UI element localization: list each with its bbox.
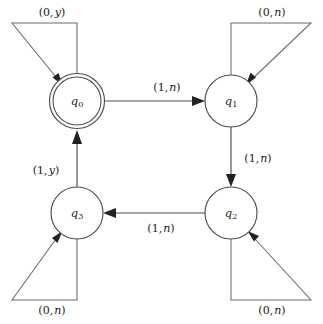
transition-q2-to-q3-label: (1, n) — [147, 222, 174, 235]
state-q0-label-base: q — [71, 94, 78, 108]
self-loop-q1-path — [231, 23, 311, 83]
transition-q2-to-q3-second: n — [163, 222, 170, 235]
state-q3[interactable]: q3 — [51, 187, 103, 239]
state-q0[interactable]: q0 — [50, 74, 105, 129]
transition-q1-to-q2-arrowhead — [226, 174, 236, 187]
transition-q1-to-q2-second: n — [260, 152, 267, 165]
automaton-svg: (0, y) (0, n) (0, n) (0, n) — [0, 0, 323, 324]
self-loop-q0-path — [12, 23, 77, 83]
state-q1[interactable]: q1 — [205, 75, 257, 127]
self-loop-q2-path — [231, 234, 311, 301]
self-loop-q2 — [231, 231, 311, 300]
transition-q0-to-q1-first: 1 — [158, 81, 165, 94]
transition-q2-to-q3-arrowhead — [103, 208, 116, 218]
self-loop-q3 — [12, 231, 77, 300]
transition-q1-to-q2-label: (1, n) — [244, 152, 271, 165]
self-loop-q1 — [231, 23, 311, 85]
transition-q0-to-q1-second: n — [169, 81, 176, 94]
transition-q1-to-q2 — [226, 127, 236, 187]
self-loop-q2-arrowhead — [248, 231, 260, 242]
transition-q3-to-q0-label: (1, y) — [33, 164, 59, 177]
transition-q1-to-q2-first: 1 — [249, 152, 256, 165]
state-q2-label-subscript: 2 — [232, 212, 237, 221]
self-loop-q0-label: (0, y) — [39, 6, 65, 19]
state-q2[interactable]: q2 — [205, 187, 257, 239]
state-q2-label-base: q — [225, 206, 232, 220]
transition-q2-to-q3-first: 1 — [152, 222, 159, 235]
self-loop-q3-first: 0 — [43, 304, 50, 317]
self-loop-q3-path — [12, 234, 77, 301]
self-loop-q0-first: 0 — [43, 6, 50, 19]
self-loop-q3-second: n — [54, 304, 61, 317]
transition-q0-to-q1-arrowhead — [192, 96, 205, 106]
state-q3-label-base: q — [71, 206, 78, 220]
transition-q3-to-q0 — [72, 130, 82, 187]
self-loop-q3-label: (0, n) — [38, 304, 65, 317]
self-loop-q2-second: n — [274, 304, 281, 317]
transition-q3-to-q0-arrowhead — [72, 130, 82, 144]
transition-q0-to-q1-label: (1, n) — [153, 81, 180, 94]
state-q1-label-base: q — [225, 94, 232, 108]
state-q0-label-subscript: 0 — [78, 100, 83, 109]
state-q1-label-subscript: 1 — [232, 100, 237, 109]
state-diagram-canvas: (0, y) (0, n) (0, n) (0, n) — [0, 0, 323, 324]
self-loop-q1-first: 0 — [263, 6, 270, 19]
self-loop-q1-label: (0, n) — [258, 6, 285, 19]
transition-q3-to-q0-first: 1 — [37, 164, 44, 177]
self-loop-q2-first: 0 — [263, 304, 270, 317]
transition-q0-to-q1 — [105, 96, 205, 106]
self-loop-q1-second: n — [274, 6, 281, 19]
self-loop-q2-label: (0, n) — [258, 304, 285, 317]
transition-q2-to-q3 — [103, 208, 205, 218]
state-q3-label-subscript: 3 — [78, 212, 83, 221]
